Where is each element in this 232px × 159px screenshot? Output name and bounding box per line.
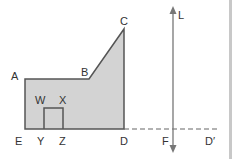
label-a: A [11,70,19,82]
label-d-prime: D′ [205,135,215,147]
polygon-abcde [25,29,124,129]
label-b: B [81,66,88,78]
label-c: C [120,15,128,27]
label-w: W [35,94,46,106]
label-y: Y [37,135,45,147]
reflection-diagram: A B C D E W X Y Z F D′ L [0,0,232,159]
label-l: L [178,9,184,21]
label-e: E [15,135,22,147]
label-z: Z [59,135,66,147]
label-f: F [162,135,169,147]
arrow-down-icon [170,145,177,153]
right-border [229,0,232,159]
label-d: D [120,135,128,147]
label-x: X [59,94,67,106]
arrow-up-icon [170,6,177,14]
